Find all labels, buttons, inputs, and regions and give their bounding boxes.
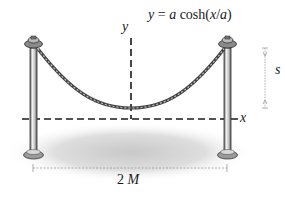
y-axis-label: y xyxy=(122,19,128,35)
span-label: 2 M xyxy=(117,172,139,188)
catenary-diagram xyxy=(0,0,285,197)
sag-dimension xyxy=(262,48,268,108)
x-axis-label: x xyxy=(240,110,246,126)
sag-label: s xyxy=(275,62,280,78)
catenary-equation: y = a cosh(x/a) xyxy=(148,7,232,23)
